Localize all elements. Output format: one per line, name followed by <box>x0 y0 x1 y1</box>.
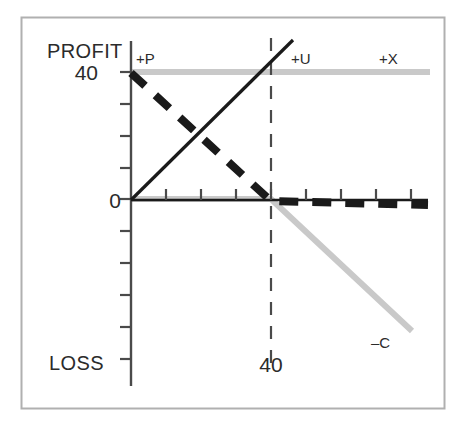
figure-root: PROFIT 40 0 LOSS 40 +P +U +X –C <box>0 0 465 430</box>
series-label-p: +P <box>136 50 155 67</box>
series-label-u: +U <box>291 50 311 67</box>
x-tick-label-40: 40 <box>259 353 282 376</box>
y-tick-label-0: 0 <box>109 189 121 212</box>
y-axis-loss-label: LOSS <box>49 352 104 374</box>
y-tick-label-40: 40 <box>75 61 98 84</box>
series-label-x: +X <box>379 50 398 67</box>
y-axis-profit-label: PROFIT <box>47 40 123 62</box>
series-label-c: –C <box>371 334 390 351</box>
profit-loss-chart: PROFIT 40 0 LOSS 40 +P +U +X –C <box>0 0 465 430</box>
